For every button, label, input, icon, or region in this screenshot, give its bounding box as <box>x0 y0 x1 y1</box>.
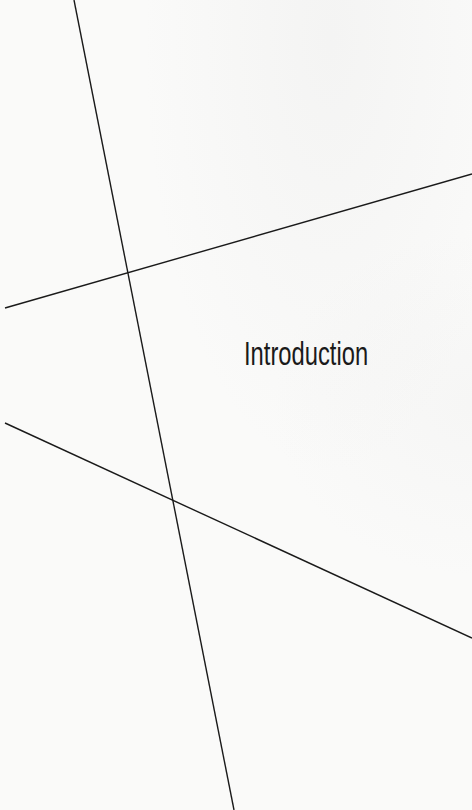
lower-slant-line <box>5 423 472 638</box>
steep-line <box>74 0 234 810</box>
upper-slant-line <box>5 174 472 308</box>
section-title: Introduction <box>244 336 368 372</box>
decorative-lines <box>0 0 472 810</box>
chapter-divider-page: Introduction <box>0 0 472 810</box>
